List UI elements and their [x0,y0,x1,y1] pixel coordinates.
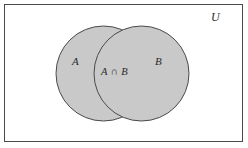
set-b-label: B [155,56,162,67]
intersection-label: A ∩ B [101,67,128,78]
venn-diagram-figure: U A B A ∩ B [0,0,248,148]
set-a-label: A [72,56,79,67]
universal-set-label: U [211,11,220,23]
